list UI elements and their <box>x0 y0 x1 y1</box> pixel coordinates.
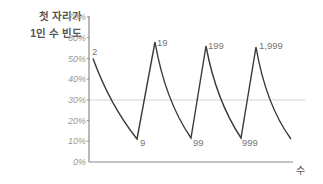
x-axis-title: 수 <box>296 165 305 176</box>
y-tick-30: 30% <box>68 95 86 105</box>
point-label-9: 9 <box>140 137 145 148</box>
y-tick-50: 50% <box>68 54 86 64</box>
y-tick-70: 70% <box>68 12 86 22</box>
y-tick-60: 60% <box>68 33 86 43</box>
y-tick-40: 40% <box>68 74 86 84</box>
point-label-2: 2 <box>92 46 97 57</box>
point-label-1999: 1,999 <box>259 40 283 51</box>
point-label-19: 19 <box>157 37 168 48</box>
y-tick-0: 0% <box>73 157 86 167</box>
point-label-199: 199 <box>208 40 224 51</box>
point-label-99: 99 <box>193 137 204 148</box>
point-label-999: 999 <box>242 137 258 148</box>
frequency-curve <box>93 42 291 139</box>
y-tick-20: 20% <box>67 116 86 126</box>
y-tick-10: 10% <box>68 136 86 146</box>
chart: 70% 60% 50% 40% 30% 20% 10% 0% 2 9 19 99… <box>0 0 323 184</box>
